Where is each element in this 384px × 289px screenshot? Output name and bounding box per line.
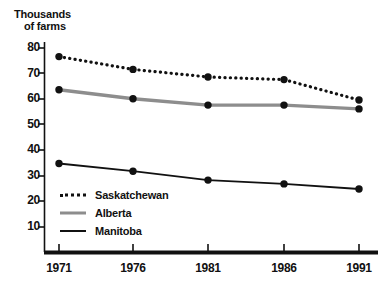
legend-item-alberta: Alberta [60, 204, 168, 222]
legend-label-manitoba: Manitoba [95, 225, 142, 237]
legend-item-saskatchewan: Saskatchewan [60, 186, 168, 204]
plot-area [0, 0, 384, 289]
line-chart: Thousands of farms 80 70 60 50 40 30 20 … [0, 0, 384, 289]
series-markers-alberta [55, 86, 362, 113]
chart-legend: Saskatchewan Alberta Manitoba [60, 186, 168, 240]
legend-swatch-grey-line-icon [60, 208, 86, 218]
legend-swatch-dotted-icon [60, 190, 86, 200]
legend-item-manitoba: Manitoba [60, 222, 168, 240]
legend-label-saskatchewan: Saskatchewan [95, 189, 168, 201]
x-axis-ticks [59, 244, 359, 251]
legend-swatch-black-line-icon [60, 226, 86, 236]
y-axis-ticks [38, 48, 45, 227]
legend-label-alberta: Alberta [95, 207, 132, 219]
